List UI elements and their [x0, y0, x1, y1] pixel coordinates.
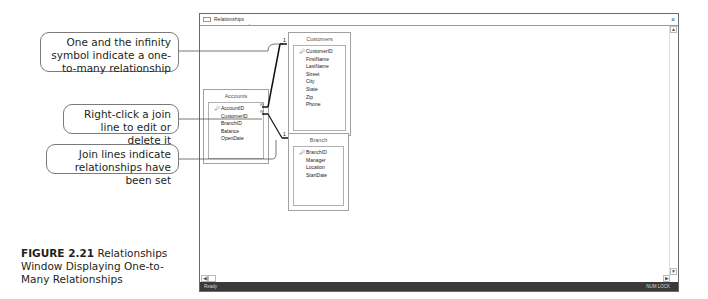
- field-location[interactable]: Location: [294, 164, 343, 172]
- callout-join-lines-set: Join lines indicate relationships have b…: [46, 144, 179, 174]
- field-customerid[interactable]: CustomerID: [209, 113, 263, 121]
- status-bar: Ready NUM LOCK: [200, 282, 678, 291]
- field-startdate[interactable]: StartDate: [294, 172, 343, 180]
- table-title: Accounts: [204, 90, 268, 102]
- relationships-icon: [203, 17, 211, 22]
- table-branch[interactable]: Branch 🔑︎BranchID Manager Location Start…: [288, 133, 349, 211]
- key-icon: 🔑︎: [299, 48, 305, 56]
- tab-relationships[interactable]: Relationships: [200, 14, 250, 25]
- close-icon[interactable]: ×: [671, 15, 675, 24]
- relationships-canvas[interactable]: Customers 🔑︎CustomerID FirstName LastNam…: [200, 26, 670, 275]
- field-manager[interactable]: Manager: [294, 157, 343, 165]
- callout-one-to-many: One and the infinity symbol indicate a o…: [40, 32, 179, 72]
- table-title: Customers: [289, 33, 350, 45]
- vertical-scrollbar[interactable]: ▲ ▼: [669, 26, 678, 275]
- field-street[interactable]: Street: [294, 71, 345, 79]
- field-city[interactable]: City: [294, 78, 345, 86]
- key-icon: 🔑︎: [214, 105, 220, 113]
- status-ready: Ready: [204, 282, 217, 291]
- relationships-window: Relationships × Customers 🔑︎CustomerID F…: [199, 13, 679, 292]
- field-accountid[interactable]: 🔑︎AccountID: [209, 105, 263, 113]
- field-branchid[interactable]: BranchID: [209, 120, 263, 128]
- table-customers[interactable]: Customers 🔑︎CustomerID FirstName LastNam…: [288, 32, 351, 136]
- scroll-up-button[interactable]: ▲: [670, 26, 677, 33]
- field-list: 🔑︎BranchID Manager Location StartDate: [293, 146, 344, 206]
- scroll-left-button[interactable]: ◀: [201, 275, 208, 282]
- scroll-down-button[interactable]: ▼: [670, 268, 677, 275]
- field-state[interactable]: State: [294, 86, 345, 94]
- tab-label: Relationships: [214, 16, 244, 22]
- figure-label: FIGURE 2.21: [21, 247, 94, 259]
- callout-right-click-join-line: Right-click a join line to edit or delet…: [63, 104, 179, 134]
- field-list: 🔑︎CustomerID FirstName LastName Street C…: [293, 45, 346, 131]
- field-firstname[interactable]: FirstName: [294, 56, 345, 64]
- table-title: Branch: [289, 134, 348, 146]
- status-num-lock: NUM LOCK: [646, 282, 670, 291]
- field-balance[interactable]: Balance: [209, 128, 263, 136]
- field-zip[interactable]: Zip: [294, 94, 345, 102]
- document-tab-bar: Relationships ×: [200, 14, 678, 26]
- horizontal-scrollbar[interactable]: ◀ ▶: [200, 275, 670, 282]
- field-list: 🔑︎AccountID CustomerID BranchID Balance …: [208, 102, 264, 159]
- table-accounts[interactable]: Accounts 🔑︎AccountID CustomerID BranchID…: [203, 89, 269, 164]
- field-lastname[interactable]: LastName: [294, 63, 345, 71]
- key-icon: 🔑︎: [299, 149, 305, 157]
- scroll-right-button[interactable]: ▶: [663, 275, 670, 282]
- scroll-thumb[interactable]: [208, 275, 216, 282]
- field-phone[interactable]: Phone: [294, 101, 345, 109]
- field-branchid[interactable]: 🔑︎BranchID: [294, 149, 343, 157]
- figure-caption: FIGURE 2.21 Relationships Window Display…: [21, 247, 181, 286]
- field-opendate[interactable]: OpenDate: [209, 135, 263, 143]
- field-customerid[interactable]: 🔑︎CustomerID: [294, 48, 345, 56]
